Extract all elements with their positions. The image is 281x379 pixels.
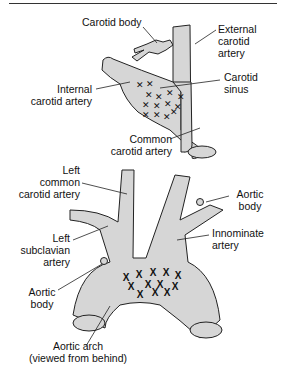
svg-text:X: X [137, 289, 144, 300]
svg-text:✕: ✕ [170, 107, 178, 117]
svg-text:X: X [152, 287, 159, 298]
svg-text:✕: ✕ [153, 110, 161, 120]
svg-text:X: X [164, 287, 171, 298]
svg-text:X: X [145, 279, 152, 290]
aortic-arch-shape [70, 170, 223, 338]
svg-text:X: X [128, 281, 135, 292]
aortic-body-left [101, 258, 108, 265]
label-aortic-body-left: Aortic body [24, 286, 60, 310]
common-carotid-opening [188, 146, 216, 158]
svg-text:✕: ✕ [136, 80, 144, 90]
svg-text:X: X [175, 270, 182, 281]
label-carotid-body: Carotid body [82, 16, 142, 28]
svg-text:X: X [163, 267, 170, 278]
label-left-common-carotid: Left common carotid artery [12, 164, 80, 200]
label-internal-carotid: Internal carotid artery [28, 83, 92, 107]
svg-text:X: X [172, 281, 179, 292]
aortic-arch [70, 170, 223, 338]
label-external-carotid: External carotid artery [218, 23, 257, 59]
svg-text:✕: ✕ [146, 79, 154, 89]
aortic-arch-right-opening [190, 322, 222, 338]
carotid-body-shape [132, 40, 173, 61]
label-left-subclavian: Left subclavian artery [14, 232, 70, 268]
label-innominate: Innominate artery [212, 227, 264, 251]
label-aortic-arch: Aortic arch (viewed from behind) [26, 340, 130, 364]
svg-text:✕: ✕ [166, 88, 174, 98]
label-aortic-body-right: Aortic body [232, 188, 268, 212]
svg-text:✕: ✕ [142, 110, 150, 120]
svg-text:✕: ✕ [142, 100, 150, 110]
aortic-body-right [197, 199, 204, 206]
svg-text:✕: ✕ [177, 92, 185, 102]
svg-text:✕: ✕ [163, 112, 171, 122]
svg-text:X: X [150, 267, 157, 278]
svg-text:X: X [136, 269, 143, 280]
label-carotid-sinus: Carotid sinus [224, 71, 258, 95]
svg-text:✕: ✕ [145, 90, 153, 100]
label-common-carotid: Common carotid artery [108, 133, 172, 157]
